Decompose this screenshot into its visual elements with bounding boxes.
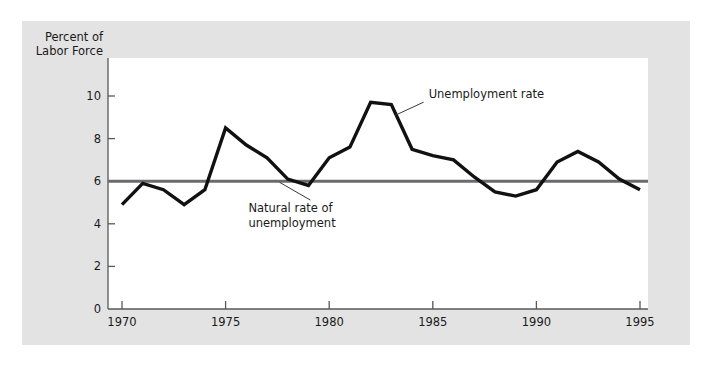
x-tick-label: 1970: [107, 315, 136, 329]
y-tick-label: 0: [94, 302, 101, 316]
annotation-label-line-2: unemployment: [248, 216, 336, 230]
y-axis-title: Percent of Labor Force: [36, 30, 104, 58]
y-tick-label: 10: [86, 89, 101, 103]
x-tick-label: 1985: [418, 315, 447, 329]
chart-series: [108, 102, 648, 204]
x-tick-label: 1975: [211, 315, 240, 329]
y-tick-label: 8: [94, 132, 101, 146]
x-tick-label: 1995: [625, 315, 654, 329]
annotation-label: Unemployment rate: [429, 87, 544, 101]
figure-root: 0246810 197019751980198519901995 Percent…: [0, 0, 713, 368]
y-tick-label: 4: [94, 217, 101, 231]
y-axis-title-line-2: Labor Force: [36, 44, 103, 58]
unemployment-rate-line: [122, 102, 640, 204]
x-axis-ticks: 197019751980198519901995: [107, 301, 654, 329]
x-tick-label: 1990: [522, 315, 551, 329]
x-tick-label: 1980: [315, 315, 344, 329]
y-axis-title-line-1: Percent of: [45, 30, 104, 44]
chart-axes: [108, 58, 648, 309]
unemployment-rate-line-chart: 0246810 197019751980198519901995 Percent…: [0, 0, 713, 368]
y-tick-label: 6: [94, 174, 101, 188]
y-tick-label: 2: [94, 259, 101, 273]
chart-annotations: Unemployment rateNatural rate ofunemploy…: [248, 87, 544, 230]
y-axis-ticks: 0246810: [86, 89, 115, 316]
annotation-label: Natural rate of: [248, 201, 333, 215]
annotation-leader-line: [396, 102, 424, 115]
